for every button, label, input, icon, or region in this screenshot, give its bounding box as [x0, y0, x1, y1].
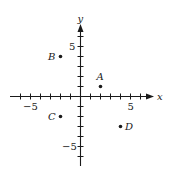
point-a-label: A	[96, 71, 104, 82]
y-axis-label: y	[77, 13, 84, 24]
x-axis-arrow-icon	[146, 94, 154, 100]
y-tick-label-neg5: −5	[62, 141, 77, 152]
y-tick-label-5: 5	[69, 41, 75, 52]
y-axis-arrow-icon	[78, 24, 84, 32]
point-b-label: B	[47, 51, 55, 62]
x-tick-label-5: 5	[128, 101, 134, 112]
point-b	[59, 55, 63, 59]
point-d	[119, 125, 123, 129]
x-tick-label-neg5: −5	[23, 101, 38, 112]
coordinate-plane: x y −5 5 5 −5 A B C D	[0, 0, 176, 173]
x-axis-label: x	[157, 91, 163, 102]
point-c-label: C	[48, 111, 56, 122]
point-c	[59, 115, 63, 119]
point-a	[99, 85, 103, 89]
point-d-label: D	[124, 121, 133, 132]
